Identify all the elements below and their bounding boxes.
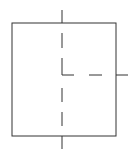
outer-rectangle <box>12 23 116 136</box>
diagram-canvas <box>0 0 135 161</box>
